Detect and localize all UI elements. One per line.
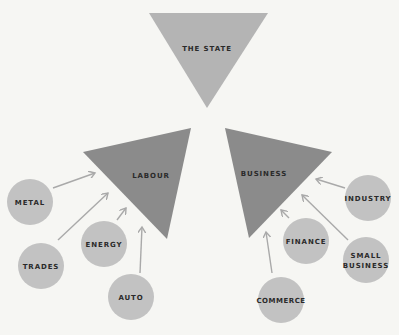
arrow-energy-to-labour [117, 208, 126, 220]
trades-label: TRADES [23, 263, 60, 271]
metal-label: METAL [15, 199, 45, 207]
arrow-finance-to-business [281, 210, 289, 218]
arrow-commerce-to-business [266, 232, 272, 273]
business-member-small-business: SMALL BUSINESS [343, 237, 389, 283]
finance-label: FINANCE [286, 238, 327, 246]
small-business-label-line2: BUSINESS [343, 262, 389, 270]
small-business-label-line1: SMALL [351, 252, 382, 260]
state-triangle [149, 13, 268, 108]
energy-label: ENERGY [86, 241, 123, 249]
state-label: THE STATE [182, 45, 232, 53]
state-node: THE STATE [149, 13, 268, 108]
industry-label: INDUSTRY [344, 195, 391, 203]
labour-member-auto: AUTO [108, 274, 154, 320]
arrow-metal-to-labour [53, 173, 95, 188]
small-business-circle [343, 237, 389, 283]
arrow-auto-to-labour [140, 227, 142, 273]
business-member-finance: FINANCE [283, 218, 329, 264]
labour-member-metal: METAL [7, 179, 53, 225]
commerce-label: COMMERCE [256, 297, 305, 305]
labour-label: LABOUR [132, 172, 170, 180]
diagram-canvas: THE STATE LABOUR BUSINESS METAL TRADES E… [0, 0, 399, 335]
business-label: BUSINESS [241, 170, 287, 178]
business-member-commerce: COMMERCE [256, 277, 305, 323]
labour-member-energy: ENERGY [81, 221, 127, 267]
labour-member-trades: TRADES [18, 243, 64, 289]
business-member-industry: INDUSTRY [344, 175, 391, 221]
arrow-industry-to-business [316, 179, 345, 188]
auto-label: AUTO [118, 294, 143, 302]
